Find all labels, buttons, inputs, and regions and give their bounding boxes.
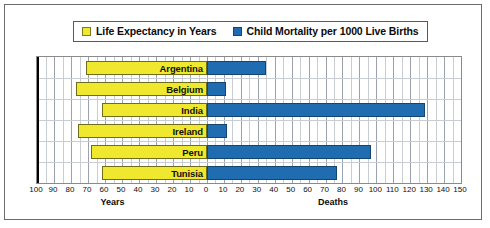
chart-legend: Life Expectancy in Years Child Mortality… bbox=[73, 21, 428, 42]
tick-label-deaths: 10 bbox=[218, 185, 227, 194]
tick-label-deaths: 80 bbox=[337, 185, 346, 194]
yellow-square-icon bbox=[82, 27, 91, 36]
tick-label-deaths: 110 bbox=[386, 185, 399, 194]
tick-label-zero: 0 bbox=[204, 185, 208, 194]
bar-child-mortality bbox=[207, 103, 425, 117]
category-label: Ireland bbox=[37, 126, 203, 137]
tick-label-years: 80 bbox=[66, 185, 75, 194]
tick-label-deaths: 100 bbox=[369, 185, 382, 194]
tick-label-years: 20 bbox=[168, 185, 177, 194]
bar-child-mortality bbox=[207, 124, 227, 138]
category-label: India bbox=[37, 105, 203, 116]
tick-label-years: 10 bbox=[185, 185, 194, 194]
tick-label-years: 70 bbox=[83, 185, 92, 194]
right-axis-title: Deaths bbox=[318, 197, 348, 207]
tick-label-deaths: 120 bbox=[403, 185, 416, 194]
tick-label-years: 30 bbox=[151, 185, 160, 194]
tick-label-years: 90 bbox=[49, 185, 58, 194]
tick-label-years: 50 bbox=[117, 185, 126, 194]
tick-label-deaths: 70 bbox=[320, 185, 329, 194]
vertical-gridlines bbox=[37, 57, 461, 183]
category-label: Peru bbox=[37, 147, 203, 158]
left-axis-title: Years bbox=[100, 197, 124, 207]
legend-label-life-expectancy: Life Expectancy in Years bbox=[96, 25, 217, 37]
tick-label-years: 40 bbox=[134, 185, 143, 194]
axis-tick-labels: 1009080706050403020100102030405060708090… bbox=[36, 185, 462, 196]
horizontal-gridlines bbox=[37, 57, 461, 183]
category-label: Argentina bbox=[37, 63, 203, 74]
tick-label-deaths: 150 bbox=[453, 185, 466, 194]
tick-label-years: 60 bbox=[100, 185, 109, 194]
center-axis-line bbox=[37, 57, 39, 183]
bar-child-mortality bbox=[207, 145, 371, 159]
blue-square-icon bbox=[233, 27, 242, 36]
tick-label-deaths: 50 bbox=[286, 185, 295, 194]
tick-label-deaths: 90 bbox=[354, 185, 363, 194]
tick-label-deaths: 30 bbox=[252, 185, 261, 194]
category-label: Tunisia bbox=[37, 168, 203, 179]
plot-area: ArgentinaBelgiumIndiaIrelandPeruTunisia bbox=[36, 56, 462, 184]
legend-entry-life-expectancy: Life Expectancy in Years bbox=[82, 25, 217, 37]
tick-label-deaths: 140 bbox=[436, 185, 449, 194]
bar-child-mortality bbox=[207, 82, 226, 96]
legend-entry-child-mortality: Child Mortality per 1000 Live Births bbox=[233, 25, 419, 37]
chart-frame: Life Expectancy in Years Child Mortality… bbox=[4, 4, 482, 220]
tick-label-years: 100 bbox=[29, 185, 42, 194]
tick-label-deaths: 130 bbox=[419, 185, 432, 194]
bar-child-mortality bbox=[207, 166, 337, 180]
category-label: Belgium bbox=[37, 84, 203, 95]
tick-label-deaths: 40 bbox=[269, 185, 278, 194]
tick-label-deaths: 60 bbox=[303, 185, 312, 194]
bar-child-mortality bbox=[207, 61, 266, 75]
legend-label-child-mortality: Child Mortality per 1000 Live Births bbox=[247, 25, 419, 37]
tick-label-deaths: 20 bbox=[235, 185, 244, 194]
